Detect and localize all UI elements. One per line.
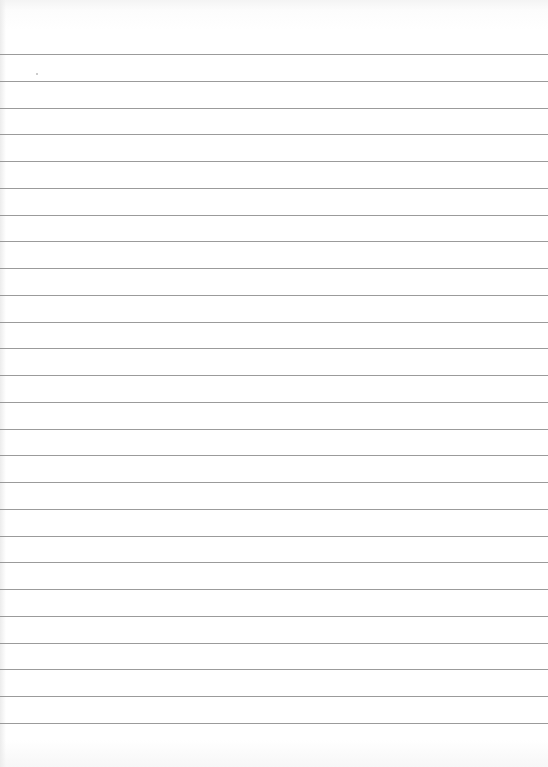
ruled-line bbox=[0, 161, 548, 162]
ruled-line bbox=[0, 669, 548, 670]
ruled-line bbox=[0, 509, 548, 510]
ruled-line bbox=[0, 81, 548, 82]
ruled-line bbox=[0, 108, 548, 109]
ruled-paper-sheet bbox=[0, 0, 548, 767]
ruled-line bbox=[0, 322, 548, 323]
ruled-line bbox=[0, 536, 548, 537]
ruled-line bbox=[0, 723, 548, 724]
ruled-line bbox=[0, 295, 548, 296]
ruled-line bbox=[0, 562, 548, 563]
ruled-line bbox=[0, 54, 548, 55]
ruled-line bbox=[0, 589, 548, 590]
paper-speck bbox=[36, 73, 38, 75]
ruled-line bbox=[0, 616, 548, 617]
ruled-line bbox=[0, 375, 548, 376]
ruled-line bbox=[0, 482, 548, 483]
ruled-line bbox=[0, 188, 548, 189]
ruled-line bbox=[0, 348, 548, 349]
ruled-line bbox=[0, 215, 548, 216]
ruled-line bbox=[0, 643, 548, 644]
ruled-line bbox=[0, 696, 548, 697]
paper-edge-shadow bbox=[0, 0, 6, 767]
ruled-line bbox=[0, 241, 548, 242]
ruled-line bbox=[0, 268, 548, 269]
ruled-line bbox=[0, 429, 548, 430]
ruled-line bbox=[0, 402, 548, 403]
ruled-line bbox=[0, 455, 548, 456]
ruled-line bbox=[0, 134, 548, 135]
